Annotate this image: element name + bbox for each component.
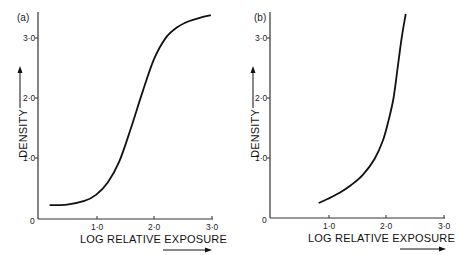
characteristic-curve-b: [319, 14, 406, 203]
origin-label: 0: [262, 215, 267, 225]
origin-label: 0: [30, 216, 35, 226]
y-tick-label: 3·0: [23, 33, 36, 43]
x-axis-title: LOG RELATIVE EXPOSURE: [80, 233, 227, 245]
y-arrow-icon: [18, 66, 23, 108]
panel-b-label: (b): [254, 12, 266, 23]
x-arrow-icon: [400, 247, 446, 252]
y-axis-title: DENSITY: [17, 108, 29, 158]
x-tick-label: 2·0: [380, 221, 393, 231]
x-arrow-icon: [163, 248, 212, 253]
y-tick-label: 2·0: [255, 93, 268, 103]
y-tick-label: 3·0: [255, 33, 268, 43]
x-tick-label: 1·0: [323, 221, 336, 231]
characteristic-curve-a: [50, 15, 211, 205]
panel-a-label: (a): [17, 12, 29, 23]
figure: (a) 1·0 2·0 3·0 0 1·0 2·0 3·0 LOG RELATI…: [0, 0, 460, 255]
x-tick-label: 3·0: [438, 221, 451, 231]
x-tick-label: 2·0: [148, 222, 161, 232]
x-axis-title: LOG RELATIVE EXPOSURE: [308, 232, 455, 244]
x-tick-label: 1·0: [91, 222, 104, 232]
panel-a: (a) 1·0 2·0 3·0 0 1·0 2·0 3·0 LOG RELATI…: [17, 12, 227, 253]
y-tick-label: 2·0: [23, 93, 36, 103]
x-tick-label: 3·0: [206, 222, 219, 232]
y-axis-title: DENSITY: [249, 108, 261, 158]
panel-b: (b) 1·0 2·0 3·0 0 1·0 2·0 3·0 LOG RELATI…: [249, 12, 455, 252]
